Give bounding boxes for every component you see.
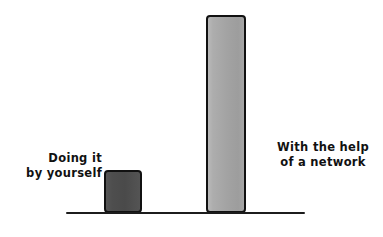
bar-label-doing-it-by-yourself: Doing it by yourself [10, 151, 102, 181]
bar-label-with-the-help-of-a-network: With the help of a network [270, 140, 376, 170]
bar-with-the-help-of-a-network [206, 15, 246, 213]
chart-canvas: Doing it by yourself With the help of a … [0, 0, 383, 237]
bar-doing-it-by-yourself [104, 170, 142, 213]
axis-baseline [66, 212, 305, 214]
